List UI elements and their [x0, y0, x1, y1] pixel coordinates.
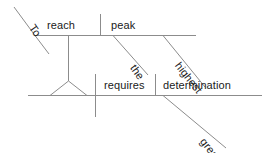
infinitive-marker-line-extension [35, 36, 49, 55]
tripod-left-leg [50, 81, 69, 96]
sentence-diagram: reach peak requires determination To the… [0, 0, 271, 153]
tripod-right-leg [69, 81, 88, 96]
word-peak: peak [111, 20, 135, 31]
modifier-slant-great [163, 96, 226, 149]
word-reach: reach [47, 20, 75, 31]
word-requires: requires [104, 80, 145, 91]
